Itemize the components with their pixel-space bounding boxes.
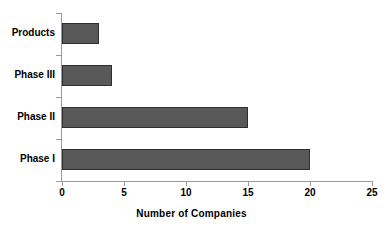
bar-products xyxy=(62,23,99,44)
x-axis-tick xyxy=(186,182,187,186)
x-axis-tick-label-20: 20 xyxy=(295,187,325,199)
y-axis-label-phase-iii: Phase III xyxy=(0,69,55,81)
bar-phase-iii xyxy=(62,65,112,86)
y-axis-label-products: Products xyxy=(0,27,55,39)
y-axis-tick xyxy=(56,181,61,182)
x-axis-tick-label-10: 10 xyxy=(171,187,201,199)
x-axis-tick xyxy=(248,182,249,186)
y-axis-tick xyxy=(56,55,61,56)
y-axis-tick xyxy=(56,139,61,140)
bar-chart: Products Phase III Phase II Phase I 0 5 … xyxy=(0,0,383,233)
y-axis-label-phase-i: Phase I xyxy=(0,153,55,165)
x-axis-title: Number of Companies xyxy=(0,208,383,219)
x-axis-tick xyxy=(310,182,311,186)
x-axis-line xyxy=(61,181,373,182)
bar-phase-ii xyxy=(62,107,248,128)
y-axis-tick xyxy=(56,13,61,14)
x-axis-tick-label-15: 15 xyxy=(233,187,263,199)
x-axis-tick-label-25: 25 xyxy=(357,187,383,199)
x-axis-tick xyxy=(124,182,125,186)
y-axis-tick xyxy=(56,97,61,98)
y-axis-label-phase-ii: Phase II xyxy=(0,111,55,123)
x-axis-tick xyxy=(62,182,63,186)
x-axis-tick-label-5: 5 xyxy=(109,187,139,199)
x-axis-tick-label-0: 0 xyxy=(47,187,77,199)
x-axis-tick xyxy=(372,182,373,186)
bar-phase-i xyxy=(62,149,310,170)
